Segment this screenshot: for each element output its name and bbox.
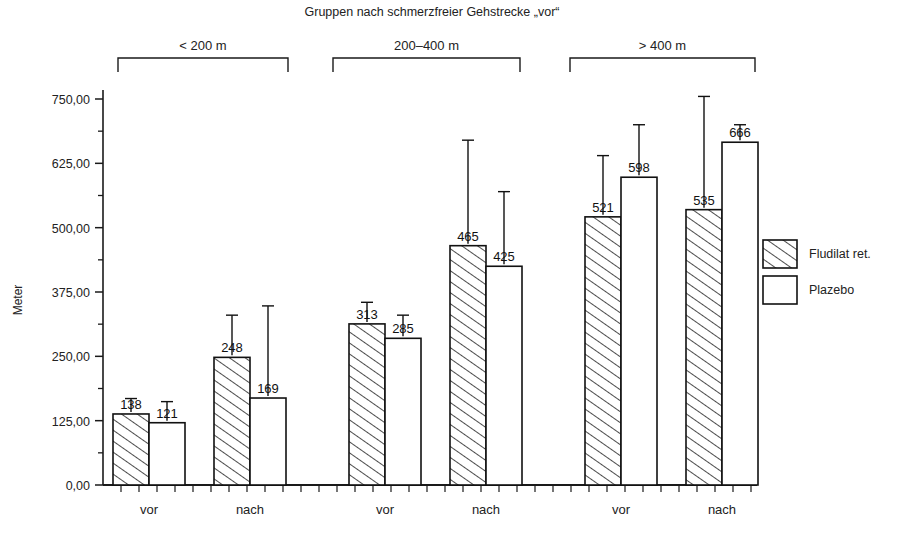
bar[interactable]: 666 (722, 125, 758, 485)
bar[interactable]: 465 (450, 140, 486, 485)
y-tick-label: 250,00 (52, 350, 90, 364)
bar[interactable]: 248 (214, 315, 250, 485)
bar-value-label: 666 (729, 125, 751, 140)
group-label: > 400 m (639, 38, 686, 53)
bar-value-label: 285 (392, 321, 414, 336)
bar-value-label: 598 (628, 160, 650, 175)
bar[interactable]: 138 (113, 397, 149, 485)
x-category-label: nach (236, 502, 264, 517)
bars-layer: 138121248169313285465425521598535666 (113, 96, 758, 485)
bar[interactable]: 521 (585, 156, 621, 485)
error-bar (698, 96, 710, 207)
bar[interactable]: 285 (385, 315, 421, 485)
y-axis-title: Meter (11, 285, 25, 316)
bar-value-label: 535 (693, 193, 715, 208)
x-category-label: vor (612, 502, 631, 517)
x-category-label: nach (708, 502, 736, 517)
group-labels: < 200 m200–400 m> 400 m (179, 38, 686, 53)
legend-label: Fludilat ret. (809, 247, 871, 261)
group-bracket (570, 58, 755, 72)
y-tick-label: 0,00 (66, 479, 90, 493)
bar[interactable]: 425 (486, 192, 522, 485)
bar-value-label: 138 (120, 397, 142, 412)
x-category-label: vor (140, 502, 159, 517)
y-axis: 0,00125,00250,00375,00500,00625,00750,00 (52, 90, 103, 493)
bar-chart: Gruppen nach schmerzfreier Gehstrecke „v… (0, 0, 898, 533)
bar-value-label: 465 (457, 229, 479, 244)
bar-value-label: 248 (221, 340, 243, 355)
bar-value-label: 169 (257, 381, 279, 396)
bar[interactable]: 121 (149, 402, 185, 485)
group-brackets (118, 58, 755, 72)
bar[interactable]: 598 (621, 125, 657, 485)
y-tick-label: 500,00 (52, 222, 90, 236)
bar[interactable]: 313 (349, 302, 385, 485)
chart-figure: Gruppen nach schmerzfreier Gehstrecke „v… (0, 0, 898, 533)
x-category-label: vor (376, 502, 395, 517)
y-tick-label: 125,00 (52, 415, 90, 429)
chart-legend: Fludilat ret.Plazebo (763, 240, 871, 304)
bar[interactable]: 169 (250, 306, 286, 485)
legend-label: Plazebo (809, 283, 854, 297)
x-axis (103, 485, 757, 492)
y-tick-label: 750,00 (52, 93, 90, 107)
y-tick-label: 375,00 (52, 286, 90, 300)
x-category-label: nach (472, 502, 500, 517)
bar[interactable]: 535 (686, 96, 722, 485)
bar-value-label: 121 (156, 406, 178, 421)
legend-item[interactable]: Fludilat ret. (763, 240, 871, 268)
category-labels: vornachvornachvornach (140, 502, 736, 517)
group-bracket (333, 58, 520, 72)
y-tick-label: 625,00 (52, 157, 90, 171)
bar-value-label: 521 (592, 200, 614, 215)
bar-value-label: 425 (493, 249, 515, 264)
legend-item[interactable]: Plazebo (763, 276, 854, 304)
group-bracket (118, 58, 288, 72)
group-label: 200–400 m (394, 38, 459, 53)
chart-title: Gruppen nach schmerzfreier Gehstrecke „v… (305, 5, 560, 19)
bar-value-label: 313 (356, 307, 378, 322)
group-label: < 200 m (179, 38, 226, 53)
